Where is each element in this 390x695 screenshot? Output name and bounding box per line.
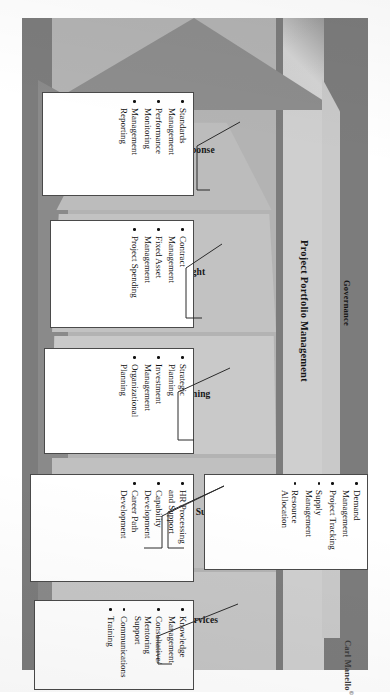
- callout-list: Contract Management Fixed Asset Manageme…: [130, 227, 189, 321]
- callout-reporting-and-response[interactable]: Standards Management Performance Monitor…: [42, 92, 194, 196]
- list-item: Standards Management: [167, 99, 188, 189]
- copyright-mark: ©: [348, 691, 354, 695]
- list-item: Management Reporting: [119, 99, 140, 189]
- list-item: Communications: [119, 607, 130, 683]
- callout-list: Standards Management Performance Monitor…: [119, 99, 188, 189]
- callout-resource-management-support-hr[interactable]: HR Processing and Support Capability Dev…: [30, 474, 194, 582]
- list-item: Consultative/ Mentoring Support: [133, 607, 165, 683]
- callout-delivery-support-services[interactable]: Knowledge Management Consultative/ Mento…: [34, 600, 194, 690]
- callout-list: Strategic Planning Investment Management…: [119, 355, 188, 447]
- list-item: Career Path Development: [119, 481, 140, 575]
- list-item: Resource Allocation: [280, 481, 301, 563]
- list-item: Contract Management: [167, 227, 188, 321]
- callout-list: Knowledge Management Consultative/ Mento…: [106, 607, 189, 683]
- author-credit-name: Carl Manello: [343, 640, 353, 691]
- list-item: Fixed Asset Management: [143, 227, 164, 321]
- author-credit: Carl Manello©: [343, 640, 354, 695]
- list-item: Knowledge Management: [167, 607, 188, 683]
- callout-list: Demand Management Project Tracking Suppl…: [280, 481, 363, 563]
- list-item: Supply Management: [304, 481, 325, 563]
- list-item: Performance Monitoring: [143, 99, 164, 189]
- list-item: Strategic Planning: [167, 355, 188, 447]
- callout-financial-oversight[interactable]: Contract Management Fixed Asset Manageme…: [50, 220, 194, 328]
- band-label-project-portfolio-management: Project Portfolio Management: [299, 240, 310, 382]
- list-item: Project Spending: [130, 227, 141, 321]
- list-item: Training: [106, 607, 117, 683]
- list-item: Capability Development: [143, 481, 164, 575]
- callout-strategy-and-planning[interactable]: Strategic Planning Investment Management…: [44, 348, 194, 454]
- list-item: Organizational Planning: [119, 355, 140, 447]
- callout-list: HR Processing and Support Capability Dev…: [119, 481, 188, 575]
- band-label-governance: Governance: [342, 280, 352, 326]
- callout-resource-management-support-demand[interactable]: Demand Management Project Tracking Suppl…: [204, 474, 368, 570]
- list-item: HR Processing and Support: [167, 481, 188, 575]
- list-item: Investment Management: [143, 355, 164, 447]
- list-item: Project Tracking: [328, 481, 339, 563]
- list-item: Demand Management: [341, 481, 362, 563]
